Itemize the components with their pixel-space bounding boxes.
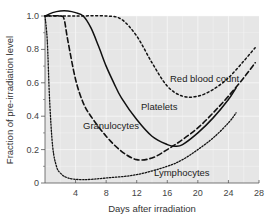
y-tick-label: 0.2 xyxy=(26,145,39,155)
x-tick-label: 4 xyxy=(73,188,78,198)
y-tick-label: 0.4 xyxy=(26,111,39,121)
x-tick-label: 16 xyxy=(162,188,172,198)
y-tick-label: 0.6 xyxy=(26,78,39,88)
x-tick-label: 12 xyxy=(132,188,142,198)
x-axis-title: Days after irradiation xyxy=(108,203,196,214)
x-tick-label: 24 xyxy=(223,188,233,198)
series-label-lymphocytes: Lymphocytes xyxy=(154,167,210,178)
y-tick-label: 1.0 xyxy=(26,11,39,21)
x-tick-label: 20 xyxy=(193,188,203,198)
x-tick-label: 8 xyxy=(104,188,109,198)
y-tick-label: 0.8 xyxy=(26,44,39,54)
y-axis-title: Fraction of pre-irradiation level xyxy=(4,36,15,164)
y-ticks: 00.20.40.60.81.0 xyxy=(26,11,45,188)
series-label-red-blood-count: Red blood count xyxy=(170,73,240,84)
series-label-platelets: Platelets xyxy=(141,101,178,112)
x-tick-label: 28 xyxy=(254,188,264,198)
chart: 00.20.40.60.81.0 481216202428 Red blood … xyxy=(0,0,272,220)
series-label-granulocytes: Granulocytes xyxy=(83,120,139,131)
y-tick-label: 0 xyxy=(34,178,39,188)
